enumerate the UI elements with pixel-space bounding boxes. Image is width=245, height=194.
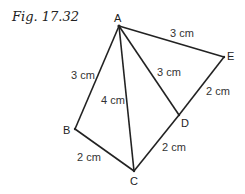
point-a-label: A (114, 12, 122, 24)
point-b-label: B (63, 124, 70, 136)
edge-bc (75, 129, 134, 171)
geometry-diagram: A B C D E 3 cm 4 cm 3 cm 3 cm 2 cm 2 cm … (0, 0, 245, 194)
point-c-label: C (130, 175, 138, 187)
point-d-label: D (181, 117, 189, 129)
edge-cd-length: 2 cm (162, 141, 186, 153)
edge-de-length: 2 cm (206, 85, 230, 97)
edge-ad-length: 3 cm (157, 66, 181, 78)
edge-bc-length: 2 cm (77, 151, 101, 163)
point-e-label: E (227, 50, 234, 62)
edge-ae-length: 3 cm (170, 27, 194, 39)
edge-ab-length: 3 cm (71, 69, 95, 81)
edge-ac-length: 4 cm (101, 94, 125, 106)
